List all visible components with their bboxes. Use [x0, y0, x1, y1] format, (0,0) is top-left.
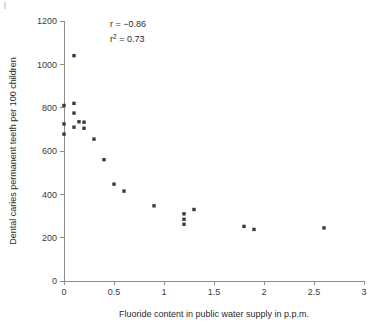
data-point [77, 120, 80, 123]
data-point [192, 208, 195, 211]
x-tick-label: 1 [161, 287, 166, 297]
data-point [62, 122, 65, 125]
data-point [322, 226, 325, 229]
r-squared-annotation: r2 = 0.73 [110, 33, 144, 45]
data-point [182, 218, 185, 221]
y-tick-label: 1000 [37, 60, 57, 70]
data-point [82, 127, 85, 130]
x-axis: 00.511.522.53 [61, 281, 366, 297]
x-tick-label: 3 [361, 287, 366, 297]
data-point [122, 189, 125, 192]
y-tick-label: 0 [52, 276, 57, 286]
data-point [72, 102, 75, 105]
x-tick-label: 0.5 [108, 287, 121, 297]
data-point [62, 104, 65, 107]
correlation-annotation: r = −0.86 [110, 19, 146, 29]
data-point [182, 223, 185, 226]
x-tick-label: 1.5 [208, 287, 221, 297]
y-axis: 020040060080010001200 [37, 16, 64, 286]
data-point [92, 137, 95, 140]
plot-canvas: 020040060080010001200 00.511.522.53 Fluo… [0, 0, 375, 326]
x-tick-label: 2.5 [308, 287, 321, 297]
data-point [72, 125, 75, 128]
data-point [152, 204, 155, 207]
y-tick-label: 600 [42, 146, 57, 156]
r-squared-value: = 0.73 [117, 34, 145, 44]
data-point [62, 132, 65, 135]
data-point [102, 158, 105, 161]
data-point [182, 212, 185, 215]
data-point [82, 120, 85, 123]
y-tick-label: 400 [42, 190, 57, 200]
y-tick-label: 800 [42, 103, 57, 113]
data-point [242, 225, 245, 228]
x-axis-title: Fluoride content in public water supply … [119, 309, 309, 319]
data-point [252, 228, 255, 231]
y-tick-label: 1200 [37, 16, 57, 26]
data-point [112, 182, 115, 185]
scatter-plot-figure: 020040060080010001200 00.511.522.53 Fluo… [0, 0, 375, 326]
y-tick-label: 200 [42, 233, 57, 243]
data-point [72, 54, 75, 57]
y-axis-title: Dental caries permanent teeth per 100 ch… [8, 57, 18, 245]
data-point-series [62, 54, 325, 231]
data-point [72, 111, 75, 114]
x-tick-label: 2 [261, 287, 266, 297]
x-tick-label: 0 [61, 287, 66, 297]
